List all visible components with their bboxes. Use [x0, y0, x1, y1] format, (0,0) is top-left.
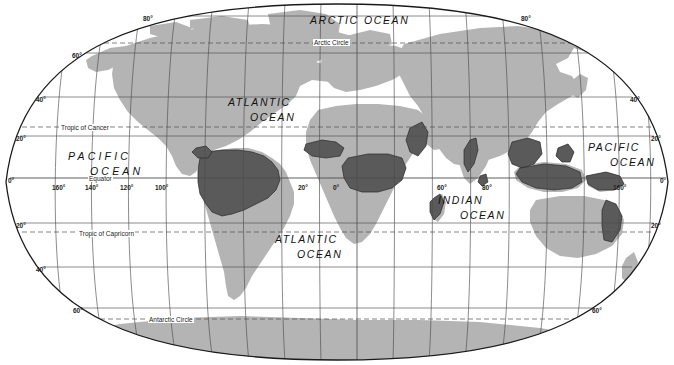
world-map: ARCTICOCEANATLANTICOCEANPACIFICOCEANPACI…	[0, 0, 674, 365]
map-canvas	[0, 0, 674, 365]
